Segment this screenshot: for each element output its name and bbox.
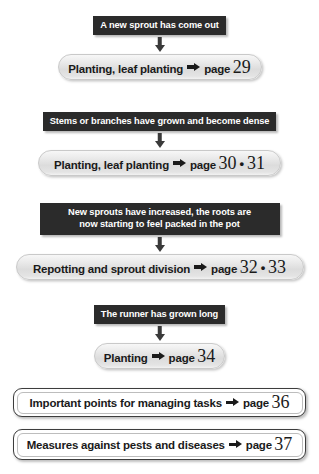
right-arrow-icon-5 xyxy=(226,398,239,407)
action-pill-content-3: Repotting and sprout division page 32 • … xyxy=(33,257,286,278)
down-arrow-icon-1 xyxy=(153,37,167,52)
page-word-6: page xyxy=(246,439,272,451)
page-word-1: page xyxy=(204,63,230,75)
footer-box-managing-tasks[interactable]: Important points for managing tasks page… xyxy=(13,388,306,417)
page-separator-3: • xyxy=(261,260,265,275)
flow-section-1: A new sprout has come out Planting, leaf… xyxy=(0,16,319,80)
action-pill-3[interactable]: Repotting and sprout division page 32 • … xyxy=(16,254,304,280)
footer-box-inner-1: Important points for managing tasks page… xyxy=(17,392,303,414)
condition-banner-1: A new sprout has come out xyxy=(93,16,226,35)
flow-section-3: New sprouts have increased, the roots ar… xyxy=(0,203,319,280)
page-number-2b: 31 xyxy=(247,153,265,174)
right-arrow-icon-2 xyxy=(173,159,186,168)
condition-banner-4: The runner has grown long xyxy=(94,305,225,324)
action-label-3: Repotting and sprout division xyxy=(33,263,190,275)
page-number-4: 34 xyxy=(197,346,215,367)
page-number-1: 29 xyxy=(233,57,251,78)
page-number-2a: 30 xyxy=(219,153,237,174)
condition-text-4: The runner has grown long xyxy=(101,309,218,319)
flowchart-container: A new sprout has come out Planting, leaf… xyxy=(0,0,319,474)
action-label-4: Planting xyxy=(104,352,148,364)
page-separator-2: • xyxy=(240,156,244,171)
page-word-2: page xyxy=(190,159,216,171)
condition-text-3-line2: now starting to feel packed in the pot xyxy=(50,219,270,231)
action-pill-4[interactable]: Planting page 34 xyxy=(94,343,225,369)
action-pill-content-1: Planting, leaf planting page 29 xyxy=(68,57,250,78)
footer-box-pests-diseases[interactable]: Measures against pests and diseases page… xyxy=(13,429,306,460)
action-pill-2[interactable]: Planting, leaf planting page 30 • 31 xyxy=(38,150,281,176)
footer-label-2: Measures against pests and diseases xyxy=(27,439,225,451)
action-label-1: Planting, leaf planting xyxy=(68,63,183,75)
page-number-3b: 33 xyxy=(268,257,286,278)
action-pill-content-4: Planting page 34 xyxy=(104,346,215,367)
page-word-3: page xyxy=(211,263,237,275)
action-pill-1[interactable]: Planting, leaf planting page 29 xyxy=(58,54,262,80)
down-arrow-icon-3 xyxy=(153,237,167,252)
page-word-4: page xyxy=(169,352,195,364)
action-pill-content-2: Planting, leaf planting page 30 • 31 xyxy=(54,153,265,174)
right-arrow-icon-6 xyxy=(229,440,242,449)
condition-banner-3: New sprouts have increased, the roots ar… xyxy=(40,203,280,235)
right-arrow-icon-3 xyxy=(194,263,207,272)
footer-box-inner-2: Measures against pests and diseases page… xyxy=(17,433,303,457)
down-arrow-icon-2 xyxy=(153,133,167,148)
page-word-5: page xyxy=(243,397,269,409)
condition-text-2: Stems or branches have grown and become … xyxy=(50,116,270,126)
action-label-2: Planting, leaf planting xyxy=(54,159,169,171)
condition-text-3: New sprouts have increased, the roots ar… xyxy=(68,207,251,217)
page-number-5: 36 xyxy=(271,392,289,413)
right-arrow-icon-4 xyxy=(152,352,165,361)
flow-section-4: The runner has grown long Planting page … xyxy=(0,305,319,369)
page-number-3a: 32 xyxy=(240,257,258,278)
footer-label-1: Important points for managing tasks xyxy=(30,397,222,409)
page-number-6: 37 xyxy=(274,434,292,455)
condition-banner-2: Stems or branches have grown and become … xyxy=(43,112,277,131)
condition-text-1: A new sprout has come out xyxy=(100,20,219,30)
right-arrow-icon-1 xyxy=(187,63,200,72)
footer-box-content-2: Measures against pests and diseases page… xyxy=(27,434,293,455)
footer-box-content-1: Important points for managing tasks page… xyxy=(30,392,290,413)
down-arrow-icon-4 xyxy=(153,326,167,341)
flow-section-2: Stems or branches have grown and become … xyxy=(0,112,319,176)
